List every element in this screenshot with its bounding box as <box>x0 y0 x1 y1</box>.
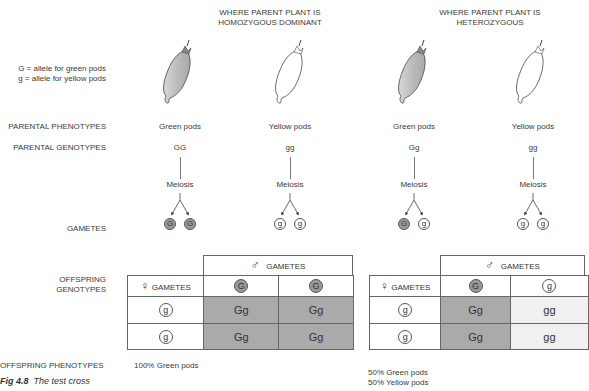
male-gametes-header: ♂ GAMETES <box>203 255 353 275</box>
gamete-dominant: G <box>469 279 483 293</box>
gamete-recessive: g <box>542 279 556 293</box>
gamete-dominant: G <box>234 279 248 293</box>
gamete-recessive: g <box>274 218 286 230</box>
offspring-cell: gg <box>510 297 588 324</box>
gamete-dominant: G <box>184 218 196 230</box>
gamete-recessive: g <box>418 218 430 230</box>
gamete-recessive: g <box>398 303 412 317</box>
female-header-text: GAMETES <box>391 283 430 292</box>
gamete-recessive: g <box>159 303 173 317</box>
female-gamete: g <box>128 297 204 324</box>
gamete-recessive: g <box>537 218 549 230</box>
offspring-cell: Gg <box>204 324 279 350</box>
female-gametes-header: ♀ GAMETES <box>128 276 204 297</box>
gamete-dominant: G <box>398 218 410 230</box>
female-gamete: g <box>370 324 441 350</box>
female-gametes-header: ♀ GAMETES <box>370 276 441 297</box>
gamete-dominant: G <box>164 218 176 230</box>
figure-caption: Fig 4.8 The test cross <box>0 376 90 386</box>
male-header-text: GAMETES <box>501 262 540 271</box>
female-symbol-icon: ♀ <box>141 279 150 293</box>
male-header-text: GAMETES <box>266 262 305 271</box>
gamete-recessive: g <box>517 218 529 230</box>
offspring-cell: Gg <box>441 297 510 324</box>
female-gamete: g <box>370 297 441 324</box>
offspring-phenotype-heterozygous: 50% Green pods 50% Yellow pods <box>368 368 429 388</box>
male-gamete: G <box>279 276 354 297</box>
punnett-square-heterozygous: ♀ GAMETES G g g Gg gg g Gg gg <box>369 275 589 350</box>
female-symbol-icon: ♀ <box>380 279 389 293</box>
male-symbol-icon: ♂ <box>251 258 260 272</box>
male-gamete: g <box>510 276 588 297</box>
offspring-phenotype-homozygous: 100% Green pods <box>134 361 199 370</box>
female-gamete: g <box>128 324 204 350</box>
offspring-cell: Gg <box>204 297 279 324</box>
offspring-cell: Gg <box>441 324 510 350</box>
female-header-text: GAMETES <box>152 283 191 292</box>
phenotype-line: 50% Yellow pods <box>368 378 429 388</box>
offspring-cell: Gg <box>279 324 354 350</box>
gamete-dominant: G <box>309 279 323 293</box>
punnett-square-homozygous: ♀ GAMETES G G g Gg Gg g Gg Gg <box>127 275 354 350</box>
male-gamete: G <box>204 276 279 297</box>
figure-title: The test cross <box>34 376 91 386</box>
offspring-cell: Gg <box>279 297 354 324</box>
figure-number: Fig 4.8 <box>0 376 29 386</box>
phenotype-line: 50% Green pods <box>368 368 429 378</box>
gamete-recessive: g <box>159 330 173 344</box>
male-gametes-header: ♂ GAMETES <box>440 255 585 275</box>
gamete-recessive: g <box>294 218 306 230</box>
offspring-cell: gg <box>510 324 588 350</box>
male-symbol-icon: ♂ <box>485 258 494 272</box>
male-gamete: G <box>441 276 510 297</box>
gamete-recessive: g <box>398 330 412 344</box>
